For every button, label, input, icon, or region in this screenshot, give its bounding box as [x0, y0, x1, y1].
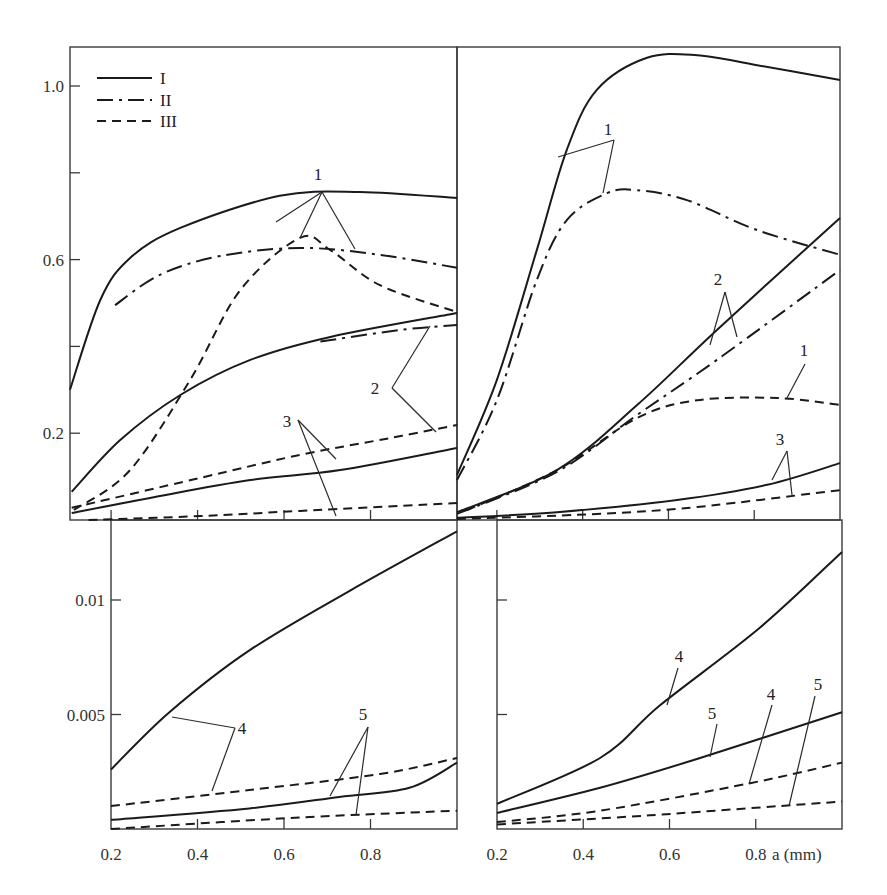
curve-4-III	[111, 758, 457, 806]
curve-2-I	[457, 218, 840, 512]
x-axis-label: a (mm)	[772, 845, 822, 864]
legend: I II III	[97, 69, 177, 131]
leader-line	[787, 451, 792, 495]
leader-line	[298, 420, 336, 516]
panel-top-right-frame	[457, 47, 840, 520]
chart: 1.00.60.20.010.0050.20.40.60.80.20.40.60…	[0, 0, 887, 895]
curve-label: 4	[767, 685, 776, 704]
curve-1-I	[70, 191, 457, 389]
leader-line	[330, 727, 368, 796]
leader-line	[787, 364, 805, 398]
curve-2-II	[457, 270, 840, 514]
curve-label: 4	[675, 647, 684, 666]
curve-2-II	[320, 325, 457, 342]
curve-3-III	[89, 503, 457, 520]
legend-label-III: III	[160, 112, 177, 131]
x-tick-label: 0.6	[659, 845, 680, 864]
legend-label-I: I	[160, 69, 166, 88]
x-tick-label: 0.6	[273, 845, 294, 864]
leader-line	[789, 696, 815, 806]
curve-label: 2	[714, 270, 723, 289]
y-tick-label: 0.005	[67, 706, 105, 725]
curve-label: 5	[359, 705, 368, 724]
curve-label: 5	[708, 704, 717, 723]
x-tick-label: 0.8	[745, 845, 766, 864]
curve-label: 3	[283, 412, 292, 431]
curve-2-III	[72, 425, 457, 508]
y-tick-label: 1.0	[43, 77, 64, 96]
curve-label: 1	[800, 341, 809, 360]
leader-line	[749, 705, 772, 784]
curve-5-I	[111, 763, 457, 820]
curve-label: 2	[371, 379, 380, 398]
curve-1-III	[467, 398, 840, 510]
leader-line	[710, 292, 725, 345]
x-tick-label: 0.8	[360, 845, 381, 864]
curve-label: 3	[776, 430, 785, 449]
curve-1-I	[457, 54, 840, 475]
x-tick-label: 0.4	[573, 845, 595, 864]
panel-bottom-left-frame	[111, 520, 457, 829]
curve-3-I	[72, 448, 457, 513]
curve-label: 5	[814, 675, 823, 694]
leader-line	[172, 717, 235, 728]
curve-2-I	[72, 313, 457, 492]
curve-label: 1	[314, 165, 323, 184]
x-tick-label: 0.2	[100, 845, 121, 864]
y-tick-label: 0.2	[43, 424, 64, 443]
curve-1-II	[115, 248, 457, 305]
y-tick-label: 0.01	[75, 591, 105, 610]
leader-line	[772, 451, 787, 480]
curve-4-I	[111, 531, 457, 769]
leader-line	[356, 727, 368, 815]
x-tick-label: 0.2	[486, 845, 507, 864]
curve-5-I	[497, 712, 842, 813]
x-tick-label: 0.4	[187, 845, 209, 864]
curves	[70, 54, 842, 829]
leader-line	[667, 668, 678, 705]
curve-4-I	[497, 552, 842, 804]
curve-label: 4	[238, 719, 247, 738]
leader-line	[212, 728, 235, 791]
leader-line	[392, 388, 436, 432]
leader-line	[298, 420, 336, 459]
leader-line	[392, 326, 430, 388]
panel-top-left-frame	[70, 47, 457, 520]
legend-label-II: II	[160, 91, 172, 110]
leader-line	[322, 192, 355, 249]
y-tick-label: 0.6	[43, 251, 64, 270]
curve-label: 1	[604, 120, 613, 139]
leader-line	[603, 140, 614, 193]
curve-1-III	[74, 236, 457, 510]
